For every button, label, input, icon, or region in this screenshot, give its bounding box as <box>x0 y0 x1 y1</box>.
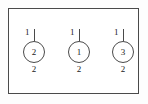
node-2-circle[interactable]: 1 <box>68 41 90 63</box>
node-2-center-label: 1 <box>77 48 82 57</box>
node-1-top-row: 1 <box>17 28 51 42</box>
node-2-tick-mark-icon <box>79 29 80 41</box>
node-3-circle[interactable]: 3 <box>112 41 134 63</box>
node-1-circle[interactable]: 2 <box>23 41 45 63</box>
node-3-center-label: 3 <box>121 48 126 57</box>
node-group-1[interactable]: 1 2 2 <box>17 28 51 78</box>
node-2-top-row: 1 <box>62 28 96 42</box>
node-1-bottom-label: 2 <box>17 64 51 75</box>
node-group-3[interactable]: 1 3 2 <box>106 28 140 78</box>
node-3-bottom-label: 2 <box>106 64 140 75</box>
diagram-canvas: 1 2 2 1 1 2 1 3 2 <box>0 0 148 104</box>
node-1-center-label: 2 <box>32 48 37 57</box>
node-1-tick-mark-icon <box>34 29 35 41</box>
node-3-top-row: 1 <box>106 28 140 42</box>
node-3-top-label: 1 <box>114 27 119 38</box>
node-group-2[interactable]: 1 1 2 <box>62 28 96 78</box>
node-2-bottom-label: 2 <box>62 64 96 75</box>
node-1-top-label: 1 <box>25 27 30 38</box>
node-2-top-label: 1 <box>70 27 75 38</box>
node-3-tick-mark-icon <box>123 29 124 41</box>
